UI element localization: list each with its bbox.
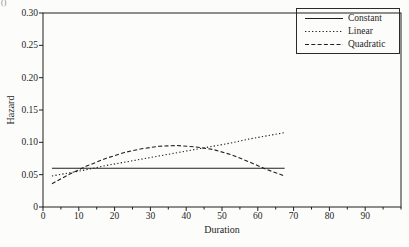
legend-label-quadratic: Quadratic <box>348 40 385 50</box>
x-tick-label: 20 <box>110 211 120 221</box>
x-tick-label: 50 <box>217 211 227 221</box>
x-tick-label: 10 <box>74 211 84 221</box>
linear-line-sample-icon <box>305 29 343 34</box>
y-tick-label: 0.25 <box>21 40 38 50</box>
x-tick-label: 0 <box>41 211 46 221</box>
hazard-rate-chart: () 010203040506070809000.050.100.150.200… <box>0 0 409 247</box>
y-axis-label: Hazard <box>5 96 16 125</box>
legend: Constant Linear Quadratic <box>296 8 400 54</box>
y-tick-label: 0.05 <box>21 170 38 180</box>
x-tick-label: 70 <box>289 211 299 221</box>
y-tick-label: 0.30 <box>21 8 38 18</box>
legend-item-constant: Constant <box>297 12 399 25</box>
series-linear-line <box>52 133 285 176</box>
x-tick-label: 90 <box>360 211 370 221</box>
y-tick-label: 0.15 <box>21 105 38 115</box>
y-tick-label: 0.20 <box>21 73 38 83</box>
quadratic-line-sample-icon <box>305 42 343 47</box>
legend-item-linear: Linear <box>297 25 399 38</box>
x-axis-label: Duration <box>204 224 240 235</box>
x-tick-label: 60 <box>253 211 263 221</box>
constant-line-sample-icon <box>305 16 343 21</box>
x-tick-label: 40 <box>181 211 191 221</box>
y-tick-label: 0.10 <box>21 137 38 147</box>
x-tick-label: 30 <box>146 211 156 221</box>
legend-item-quadratic: Quadratic <box>297 38 399 51</box>
series-quadratic-line <box>52 146 285 184</box>
x-tick-label: 80 <box>325 211 335 221</box>
legend-label-constant: Constant <box>348 14 382 24</box>
legend-label-linear: Linear <box>348 27 373 37</box>
y-tick-label: 0 <box>33 202 38 212</box>
